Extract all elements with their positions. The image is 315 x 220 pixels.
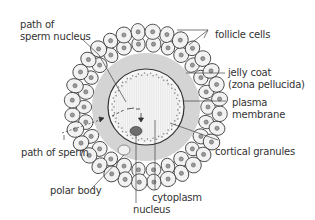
label-jelly-coat: jelly coat (zona pellucida) [228, 67, 305, 90]
label-path-of-sperm: path of sperm [21, 147, 89, 159]
label-follicle-cells: follicle cells [215, 29, 270, 41]
follicle-cell [131, 173, 148, 191]
label-path-of-sperm-nucleus: path of sperm nucleus [20, 19, 91, 42]
label-polar-body: polar body [50, 185, 101, 197]
label-cortical-granules: cortical granules [215, 146, 295, 158]
polar-body [118, 145, 130, 155]
label-line: plasma [232, 97, 285, 109]
label-line: membrane [232, 109, 285, 121]
label-line: sperm nucleus [20, 31, 91, 43]
egg-nucleus [130, 127, 142, 136]
follicle-cell [130, 23, 146, 41]
label-nucleus: nucleus [133, 204, 170, 216]
label-line: path of [20, 19, 91, 31]
label-line: jelly coat [228, 67, 305, 79]
follicle-cell [146, 173, 162, 190]
label-plasma-membrane: plasma membrane [232, 97, 285, 120]
label-cytoplasm: cytoplasm [152, 192, 202, 204]
cytoplasm [108, 69, 184, 145]
follicle-cell [144, 24, 161, 41]
label-line: (zona pellucida) [228, 79, 305, 91]
